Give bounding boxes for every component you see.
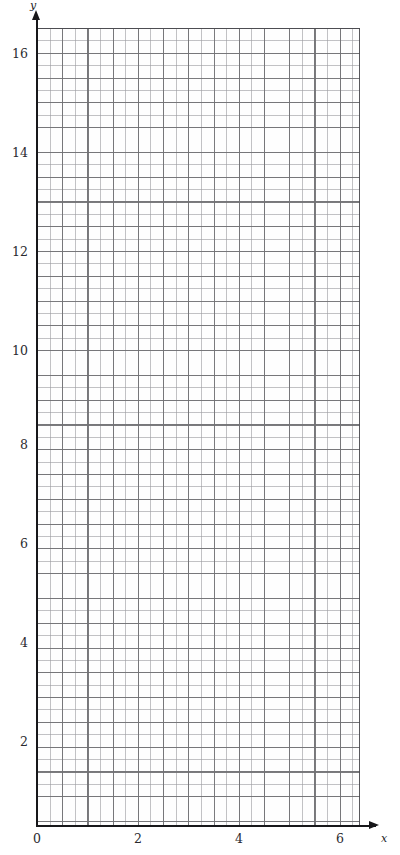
grid-right-edge xyxy=(359,28,360,826)
y-tick-label-14: 14 xyxy=(12,146,28,159)
y-tick-label-12: 12 xyxy=(12,245,28,258)
y-tick-label-10: 10 xyxy=(12,344,28,357)
x-tick-label-2: 2 xyxy=(134,833,142,846)
y-tick-label-16: 16 xyxy=(12,47,28,60)
x-axis-label: x xyxy=(381,833,387,844)
y-tick-label-2: 2 xyxy=(20,736,28,749)
grid-top-edge xyxy=(37,28,360,29)
coordinate-grid-figure: x y 0 2 4 6 8 10 12 14 16 2 4 6 xyxy=(0,0,400,855)
y-tick-label-8: 8 xyxy=(20,439,28,452)
y-axis-label: y xyxy=(30,0,36,11)
x-axis-line xyxy=(36,825,376,827)
y-tick-label-6: 6 xyxy=(20,538,28,551)
grid-area xyxy=(37,28,360,826)
origin-tick-label: 0 xyxy=(33,833,41,846)
y-tick-label-4: 4 xyxy=(20,637,28,650)
arrow-right-icon xyxy=(369,821,379,829)
x-tick-label-6: 6 xyxy=(336,833,344,846)
x-tick-label-4: 4 xyxy=(235,833,243,846)
y-axis-line xyxy=(36,18,38,826)
